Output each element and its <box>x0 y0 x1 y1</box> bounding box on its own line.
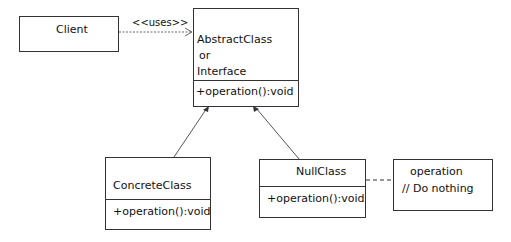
abstract-line2: or <box>199 49 210 62</box>
client-class-box[interactable]: Client <box>19 16 119 52</box>
concrete-class-box[interactable]: ConcreteClass +operation():void <box>105 157 211 230</box>
abstract-method: +operation():void <box>196 85 294 98</box>
abstract-line1: AbstractClass <box>197 33 272 46</box>
note-box[interactable]: operation // Do nothing <box>393 159 493 211</box>
null-divider <box>260 186 365 187</box>
null-method: +operation():void <box>267 192 365 205</box>
null-inherits-line <box>256 108 299 159</box>
null-class-box[interactable]: NullClass +operation():void <box>259 159 366 218</box>
uses-label: <<uses>> <box>132 16 188 29</box>
note-line2: // Do nothing <box>402 182 474 195</box>
note-line1: operation <box>410 165 463 178</box>
concrete-name: ConcreteClass <box>113 179 192 192</box>
abstract-divider <box>194 80 298 81</box>
client-name: Client <box>56 23 88 36</box>
abstract-line3: Interface <box>197 65 246 78</box>
concrete-divider <box>106 199 210 200</box>
null-name: NullClass <box>296 165 346 178</box>
abstract-class-box[interactable]: AbstractClass or Interface +operation():… <box>193 8 299 107</box>
concrete-method: +operation():void <box>113 205 211 218</box>
concrete-inherits-line <box>174 108 207 157</box>
